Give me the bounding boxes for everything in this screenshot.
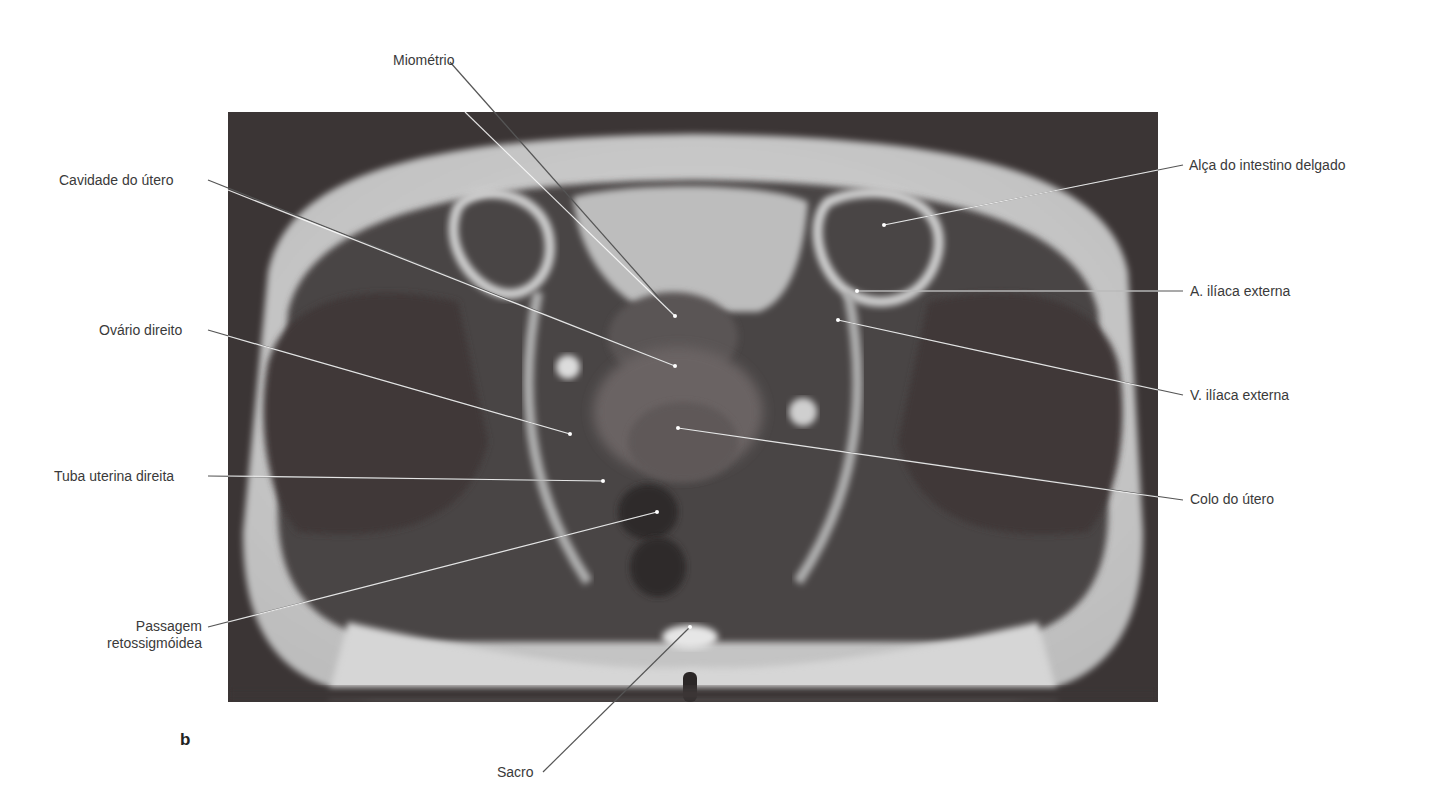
mri-axial-pelvis-image	[228, 112, 1158, 702]
label-ovario-direito: Ovário direito	[99, 322, 182, 339]
label-passagem-line2: retossigmóidea	[84, 635, 202, 652]
label-v-iliaca-externa: V. ilíaca externa	[1190, 387, 1289, 404]
label-tuba-uterina-direita: Tuba uterina direita	[54, 468, 174, 485]
label-passagem-retossigmoidea: Passagem retossigmóidea	[84, 618, 202, 652]
label-cavidade-do-utero: Cavidade do útero	[59, 172, 173, 189]
anatomy-figure: Miométrio Cavidade do útero Ovário direi…	[0, 0, 1441, 803]
mri-scan-graphic	[228, 112, 1158, 702]
label-a-iliaca-externa: A. ilíaca externa	[1190, 283, 1290, 300]
label-miometrio: Miométrio	[393, 52, 454, 69]
label-colo-do-utero: Colo do útero	[1190, 491, 1274, 508]
label-sacro: Sacro	[497, 764, 534, 781]
label-passagem-line1: Passagem	[84, 618, 202, 635]
panel-letter: b	[180, 730, 190, 750]
label-alca-do-intestino-delgado: Alça do intestino delgado	[1189, 157, 1345, 174]
